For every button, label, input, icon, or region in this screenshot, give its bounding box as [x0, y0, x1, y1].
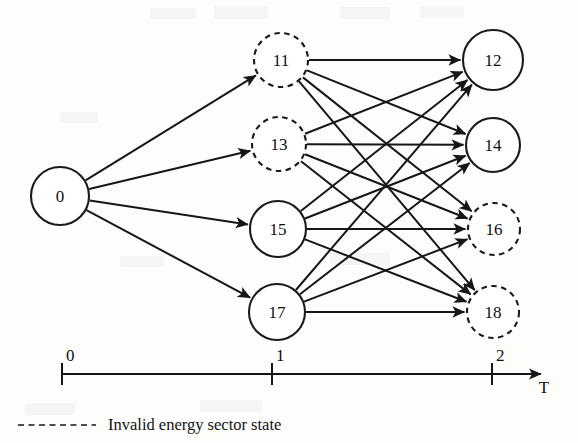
axis-tick-label-1: 1 [276, 346, 285, 365]
axis-name-label: T [539, 378, 550, 397]
node-label-13: 13 [271, 135, 288, 154]
legend-label: Invalid energy sector state [108, 415, 281, 435]
node-16[interactable]: 16 [468, 203, 520, 255]
node-18[interactable]: 18 [467, 286, 519, 338]
edge-0-to-13 [89, 151, 250, 189]
time-axis: 012 T [62, 346, 550, 397]
node-label-11: 11 [273, 51, 289, 70]
node-label-16: 16 [486, 220, 503, 239]
node-label-18: 18 [485, 303, 502, 322]
node-14[interactable]: 14 [466, 118, 520, 172]
axis-ticks: 012 [62, 346, 505, 385]
node-label-12: 12 [485, 51, 502, 70]
edges-layer [86, 60, 475, 312]
node-label-17: 17 [269, 303, 287, 322]
edge-0-to-15 [90, 200, 248, 224]
state-transition-diagram: 01113151712141618 012 T [0, 0, 578, 443]
node-0[interactable]: 0 [31, 167, 89, 225]
node-15[interactable]: 15 [250, 201, 306, 257]
edge-17-to-12 [296, 85, 472, 290]
edge-0-to-11 [86, 75, 256, 180]
node-13[interactable]: 13 [252, 117, 306, 171]
node-11[interactable]: 11 [254, 33, 308, 87]
figure-canvas: 01113151712141618 012 T Invalid energy s… [0, 0, 578, 443]
axis-tick-label-2: 2 [496, 346, 505, 365]
edge-0-to-17 [86, 210, 250, 297]
axis-tick-label-0: 0 [66, 346, 75, 365]
node-label-14: 14 [485, 136, 503, 155]
node-label-0: 0 [56, 187, 65, 206]
node-12[interactable]: 12 [463, 30, 523, 90]
node-17[interactable]: 17 [249, 284, 305, 340]
node-label-15: 15 [270, 220, 287, 239]
